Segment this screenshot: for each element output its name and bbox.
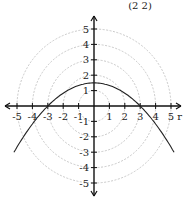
x-tick-label: 5	[168, 111, 174, 122]
x-tick-label: -3	[43, 111, 53, 122]
polar-graph: (2 2)-5-4-3-2-11234554321-1-2-3-4-5r	[0, 0, 185, 200]
x-tick-label: 1	[106, 111, 112, 122]
y-tick-label: 1	[83, 85, 89, 96]
y-tick-label: -3	[79, 147, 89, 158]
header-text: (2 2)	[128, 0, 152, 11]
y-tick-label: 5	[83, 24, 89, 35]
x-tick-label: 3	[137, 111, 143, 122]
x-tick-label: 2	[122, 111, 128, 122]
y-tick-label: -1	[79, 116, 89, 127]
x-axis-label: r	[177, 111, 182, 122]
y-tick-label: -4	[79, 162, 89, 173]
y-tick-label: -5	[79, 178, 89, 189]
y-tick-label: 2	[83, 70, 89, 81]
x-tick-label: -2	[58, 111, 68, 122]
y-tick-label: 3	[83, 54, 89, 65]
y-tick-label: 4	[83, 39, 89, 50]
x-tick-label: -5	[12, 111, 22, 122]
y-tick-label: -2	[79, 131, 89, 142]
